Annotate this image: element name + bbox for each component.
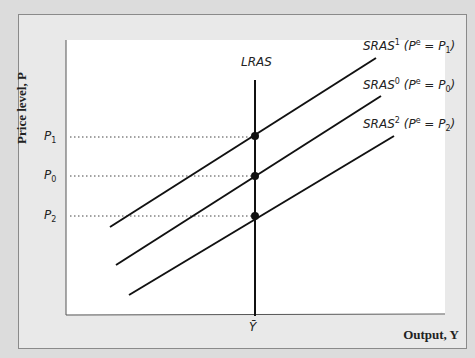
sras1-close: ) [451,39,456,53]
lras-label: LRAS [241,55,272,69]
sras1-sup: 1 [395,38,400,47]
tick-label-ybar: Ȳ [249,320,256,334]
sras1-line [110,58,376,227]
y-axis-label: Price level, P [14,72,30,144]
x-axis-label: Output, Y [403,327,459,343]
equilibrium-point-p0 [251,172,259,180]
tick-p2-sub: 2 [51,215,56,224]
sras2-sup: 2 [395,116,400,125]
sras1-eq: = [421,39,439,53]
sras2-line [129,136,394,295]
sras0-name: SRAS [363,78,395,92]
equilibrium-point-p1 [251,132,259,140]
tick-p0-sub: 0 [51,175,56,184]
equilibrium-point-p2 [251,212,259,220]
tick-label-p0: P0 [44,168,56,184]
sras2-pe: (P [404,117,416,131]
tick-p1-sub: 1 [51,136,56,145]
sras0-label: SRAS0 (Pe = P0) [363,77,455,94]
sras1-name: SRAS [363,39,395,53]
tick-label-p2: P2 [44,208,56,224]
sras0-pe: (P [404,78,416,92]
sras0-close: ) [451,78,456,92]
tick-label-p1: P1 [44,129,56,145]
sras2-label: SRAS2 (Pe = P2) [363,116,455,133]
sras2-name: SRAS [363,117,395,131]
sras2-close: ) [451,117,456,131]
sras1-label: SRAS1 (Pe = P1) [363,38,455,55]
x-axis-label-text: Output, Y [403,327,459,342]
sras0-sup: 0 [395,77,400,86]
sras0-line [116,96,381,265]
sras2-eq: = [421,117,439,131]
sras0-eq: = [421,78,439,92]
sras1-pe: (P [404,39,416,53]
